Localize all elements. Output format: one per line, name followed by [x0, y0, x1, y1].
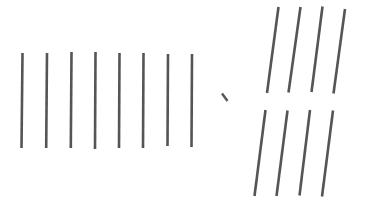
vertical-stroke: [71, 52, 72, 148]
vertical-stroke: [143, 53, 144, 148]
vertical-stroke: [95, 52, 96, 149]
canvas-background: [0, 0, 365, 207]
vertical-stroke: [192, 54, 193, 147]
line-strokes-figure: [0, 0, 365, 207]
figure-canvas: Hand-drawn line strokes figure: [0, 0, 365, 207]
vertical-stroke: [46, 53, 47, 148]
vertical-stroke: [22, 53, 23, 148]
vertical-stroke: [168, 54, 169, 146]
vertical-stroke: [119, 53, 120, 148]
